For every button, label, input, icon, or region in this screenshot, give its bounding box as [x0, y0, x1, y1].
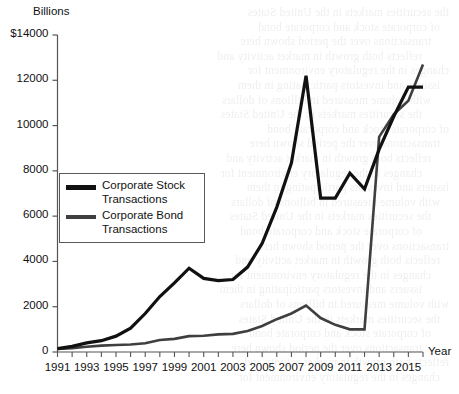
y-tick-label: 4000: [23, 253, 49, 265]
x-tick-label: 2015: [388, 361, 428, 373]
chart-figure: the securities markets in the United Sta…: [0, 0, 459, 394]
y-tick-label: 8000: [23, 163, 49, 175]
y-tick-label: 6000: [23, 208, 49, 220]
y-axis-title: Billions: [33, 5, 69, 17]
y-axis-tick-marks: [53, 35, 58, 352]
y-tick-label: $14000: [10, 27, 48, 39]
x-axis-title: Year: [428, 345, 451, 357]
y-tick-label: 2000: [23, 299, 49, 311]
legend-label-stock: Corporate Stock Transactions: [102, 179, 185, 206]
legend-swatch-stock-icon: [66, 185, 96, 190]
legend-label-bond: Corporate Bond Transactions: [102, 209, 183, 236]
y-tick-label: 10000: [17, 118, 49, 130]
legend-item-corporate-bond: Corporate Bond Transactions: [66, 209, 202, 236]
y-tick-label: 0: [42, 344, 48, 356]
chart-legend: Corporate Stock Transactions Corporate B…: [59, 173, 205, 243]
legend-swatch-bond-icon: [66, 215, 96, 219]
legend-item-corporate-stock: Corporate Stock Transactions: [66, 179, 202, 206]
x-axis-tick-marks: [58, 352, 424, 357]
y-tick-label: 12000: [17, 72, 49, 84]
